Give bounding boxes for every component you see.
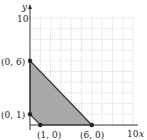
y-axis-label: y	[21, 2, 28, 12]
y-axis-arrow-icon	[28, 4, 32, 9]
point-6-0	[90, 123, 94, 127]
x-max-label: 10	[127, 129, 139, 139]
label-0-6: (0, 6)	[1, 57, 25, 67]
y-max-label: 10	[17, 14, 29, 24]
label-1-0: (1, 0)	[37, 130, 61, 140]
label-0-1: (0, 1)	[1, 110, 25, 120]
feasible-region-chart: y 10 10 x (0, 6) (0, 1) (1, 0) (6, 0)	[0, 0, 147, 140]
label-6-0: (6, 0)	[80, 130, 104, 140]
point-0-6	[28, 59, 32, 63]
point-0-1	[28, 112, 32, 116]
point-1-0	[38, 123, 42, 127]
x-axis-label: x	[139, 129, 144, 139]
